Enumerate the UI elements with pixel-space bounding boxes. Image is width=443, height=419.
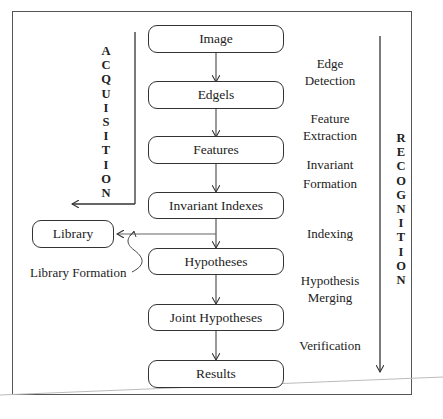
step-label: Verification (286, 337, 374, 354)
step-label: Invariant (290, 155, 370, 174)
letter: G (394, 188, 408, 202)
step-label: Merging (288, 289, 372, 306)
letter: I (99, 158, 113, 172)
node-features: Features (148, 136, 284, 164)
step-edge-detection: EdgeDetection (290, 55, 370, 89)
node-label: Results (196, 366, 236, 382)
step-hypothesis-merging: HypothesisMerging (288, 272, 372, 306)
letter: E (394, 145, 408, 159)
letter: N (99, 186, 113, 200)
letter: O (99, 172, 113, 186)
step-feature-extraction: FeatureExtraction (290, 110, 370, 144)
letter: N (394, 202, 408, 216)
step-label: Formation (290, 174, 370, 193)
step-invariant-formation: InvariantFormation (290, 155, 370, 193)
node-label: Joint Hypotheses (170, 310, 263, 326)
letter: I (394, 245, 408, 259)
letter: C (394, 159, 408, 173)
node-results: Results (148, 360, 284, 388)
letter: N (394, 273, 408, 287)
letter: A (99, 44, 113, 58)
letter: O (394, 174, 408, 188)
node-label: Edgels (198, 87, 235, 103)
letter: I (99, 129, 113, 143)
node-invariant-indexes: Invariant Indexes (148, 192, 284, 219)
letter: C (99, 58, 113, 72)
recognition-label: R E C O G N I T I O N (394, 131, 408, 287)
node-edgels: Edgels (148, 81, 284, 109)
node-label: Library (53, 226, 93, 242)
step-label: Detection (290, 72, 370, 89)
letter: T (99, 143, 113, 157)
step-label: Indexing (290, 225, 370, 242)
step-label: Edge (290, 55, 370, 72)
letter: T (394, 230, 408, 244)
node-library: Library (32, 220, 114, 248)
node-image: Image (148, 25, 284, 53)
node-joint-hypotheses: Joint Hypotheses (148, 304, 284, 331)
letter: S (99, 115, 113, 129)
letter: Q (99, 72, 113, 86)
letter: I (99, 101, 113, 115)
letter: R (394, 131, 408, 145)
acquisition-label: A C Q U I S I T I O N (99, 44, 113, 200)
letter: U (99, 87, 113, 101)
library-formation-label: Library Formation (30, 264, 130, 281)
step-label: Extraction (290, 127, 370, 144)
step-verification: Verification (286, 337, 374, 354)
node-hypotheses: Hypotheses (148, 248, 284, 275)
letter: O (394, 259, 408, 273)
node-label: Image (199, 31, 233, 47)
node-label: Features (193, 142, 239, 158)
letter: I (394, 216, 408, 230)
node-label: Hypotheses (185, 254, 248, 270)
node-label: Invariant Indexes (169, 198, 263, 214)
step-label: Feature (290, 110, 370, 127)
step-indexing: Indexing (290, 225, 370, 242)
step-label: Hypothesis (288, 272, 372, 289)
